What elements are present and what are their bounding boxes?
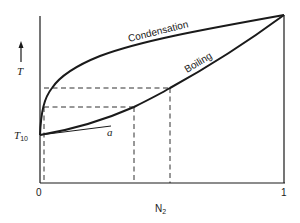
t10-label: T10 — [14, 129, 28, 142]
up-arrow-icon — [19, 41, 24, 62]
x-tick-1: 1 — [281, 187, 287, 198]
phase-diagram: T T10 a Condensation Boiling 0 1 N2 — [0, 0, 300, 223]
y-axis-label: T — [17, 65, 24, 77]
tangent-label-a: a — [107, 126, 113, 138]
x-axis-label: N2 — [155, 203, 166, 215]
x-tick-0: 0 — [36, 187, 42, 198]
